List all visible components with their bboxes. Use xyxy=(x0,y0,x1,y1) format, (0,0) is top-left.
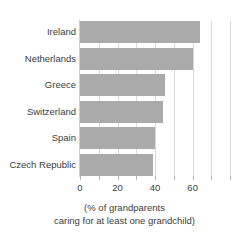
bar-row xyxy=(80,154,153,176)
category-label: Greece xyxy=(0,74,76,96)
category-axis-labels: IrelandNetherlandsGreeceSwitzerlandSpain… xyxy=(0,21,76,176)
category-label: Netherlands xyxy=(0,48,76,70)
bar xyxy=(80,154,153,176)
bar xyxy=(80,127,155,149)
x-axis-tick-label: 20 xyxy=(112,182,123,193)
x-axis-tick xyxy=(155,176,156,180)
x-axis-tick xyxy=(211,176,212,180)
bar xyxy=(80,74,165,96)
bar-chart: IrelandNetherlandsGreeceSwitzerlandSpain… xyxy=(0,0,249,241)
category-label: Spain xyxy=(0,127,76,149)
x-axis-tick xyxy=(230,176,231,180)
plot-area xyxy=(80,21,249,176)
caption-line-2: caring for at least one grandchild) xyxy=(0,214,249,227)
x-axis-tick xyxy=(80,176,81,180)
x-axis-tick-label: 40 xyxy=(150,182,161,193)
x-axis-tick xyxy=(136,176,137,180)
bar-row xyxy=(80,127,155,149)
bar-row xyxy=(80,48,193,70)
bar xyxy=(80,101,163,123)
bar-row xyxy=(80,74,165,96)
x-axis-ticks xyxy=(80,176,249,180)
bar-row xyxy=(80,21,200,43)
x-axis-tick-label: 0 xyxy=(77,182,82,193)
category-label: Ireland xyxy=(0,21,76,43)
caption-line-1: (% of grandparents xyxy=(0,201,249,214)
x-axis-tick xyxy=(118,176,119,180)
x-axis-tick xyxy=(174,176,175,180)
bar xyxy=(80,21,200,43)
x-axis-tick xyxy=(193,176,194,180)
bar-row xyxy=(80,101,163,123)
category-label: Switzerland xyxy=(0,101,76,123)
bar xyxy=(80,48,193,70)
bar-series xyxy=(80,21,249,176)
x-axis-tick xyxy=(99,176,100,180)
chart-caption: (% of grandparents caring for at least o… xyxy=(0,201,249,227)
x-axis-tick-labels: 0204060 xyxy=(0,182,249,195)
category-label: Czech Republic xyxy=(0,154,76,176)
x-axis-tick-label: 60 xyxy=(187,182,198,193)
